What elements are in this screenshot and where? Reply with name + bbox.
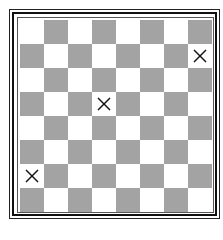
board-square-r7-c2[interactable] xyxy=(68,188,92,212)
board-square-r3-c1[interactable] xyxy=(44,92,68,116)
board-square-r7-c4[interactable] xyxy=(116,188,140,212)
board-square-r0-c1[interactable] xyxy=(44,20,68,44)
board-square-r1-c3[interactable] xyxy=(92,44,116,68)
board-square-r2-c7[interactable] xyxy=(188,68,212,92)
board-square-r7-c0[interactable] xyxy=(20,188,44,212)
board-square-r4-c3[interactable] xyxy=(92,116,116,140)
board-square-r0-c4[interactable] xyxy=(116,20,140,44)
board-square-r6-c5[interactable] xyxy=(140,164,164,188)
board-square-r3-c4[interactable] xyxy=(116,92,140,116)
board-square-r2-c2[interactable] xyxy=(68,68,92,92)
board-square-r6-c3[interactable] xyxy=(92,164,116,188)
board-square-r4-c0[interactable] xyxy=(20,116,44,140)
checkerboard xyxy=(20,20,212,212)
board-square-r2-c1[interactable] xyxy=(44,68,68,92)
board-square-r7-c7[interactable] xyxy=(188,188,212,212)
board-square-r0-c2[interactable] xyxy=(68,20,92,44)
board-square-r2-c0[interactable] xyxy=(20,68,44,92)
x-mark-icon xyxy=(25,169,39,183)
x-mark-icon xyxy=(97,97,111,111)
board-square-r4-c7[interactable] xyxy=(188,116,212,140)
board-square-r1-c6[interactable] xyxy=(164,44,188,68)
board-square-r2-c6[interactable] xyxy=(164,68,188,92)
board-square-r2-c3[interactable] xyxy=(92,68,116,92)
board-square-r5-c0[interactable] xyxy=(20,140,44,164)
board-square-r7-c3[interactable] xyxy=(92,188,116,212)
board-square-r6-c4[interactable] xyxy=(116,164,140,188)
board-square-r0-c0[interactable] xyxy=(20,20,44,44)
board-square-r5-c2[interactable] xyxy=(68,140,92,164)
board-square-r5-c1[interactable] xyxy=(44,140,68,164)
board-square-r4-c1[interactable] xyxy=(44,116,68,140)
board-square-r1-c4[interactable] xyxy=(116,44,140,68)
board-square-r5-c3[interactable] xyxy=(92,140,116,164)
board-square-r5-c4[interactable] xyxy=(116,140,140,164)
board-square-r0-c6[interactable] xyxy=(164,20,188,44)
board-square-r3-c5[interactable] xyxy=(140,92,164,116)
board-square-r4-c2[interactable] xyxy=(68,116,92,140)
board-square-r5-c6[interactable] xyxy=(164,140,188,164)
board-square-r6-c6[interactable] xyxy=(164,164,188,188)
board-square-r3-c2[interactable] xyxy=(68,92,92,116)
board-square-r3-c3[interactable] xyxy=(92,92,116,116)
board-square-r1-c2[interactable] xyxy=(68,44,92,68)
board-square-r4-c5[interactable] xyxy=(140,116,164,140)
board-square-r1-c7[interactable] xyxy=(188,44,212,68)
board-square-r2-c4[interactable] xyxy=(116,68,140,92)
board-square-r4-c4[interactable] xyxy=(116,116,140,140)
board-square-r6-c0[interactable] xyxy=(20,164,44,188)
board-square-r0-c3[interactable] xyxy=(92,20,116,44)
board-square-r7-c6[interactable] xyxy=(164,188,188,212)
x-mark-icon xyxy=(193,49,207,63)
board-square-r6-c7[interactable] xyxy=(188,164,212,188)
board-square-r5-c7[interactable] xyxy=(188,140,212,164)
board-square-r1-c5[interactable] xyxy=(140,44,164,68)
board-square-r1-c1[interactable] xyxy=(44,44,68,68)
board-square-r4-c6[interactable] xyxy=(164,116,188,140)
board-square-r2-c5[interactable] xyxy=(140,68,164,92)
board-square-r7-c1[interactable] xyxy=(44,188,68,212)
board-square-r6-c2[interactable] xyxy=(68,164,92,188)
board-square-r3-c6[interactable] xyxy=(164,92,188,116)
board-square-r5-c5[interactable] xyxy=(140,140,164,164)
board-square-r0-c7[interactable] xyxy=(188,20,212,44)
board-square-r3-c0[interactable] xyxy=(20,92,44,116)
board-square-r3-c7[interactable] xyxy=(188,92,212,116)
board-square-r0-c5[interactable] xyxy=(140,20,164,44)
board-square-r1-c0[interactable] xyxy=(20,44,44,68)
board-square-r6-c1[interactable] xyxy=(44,164,68,188)
board-square-r7-c5[interactable] xyxy=(140,188,164,212)
